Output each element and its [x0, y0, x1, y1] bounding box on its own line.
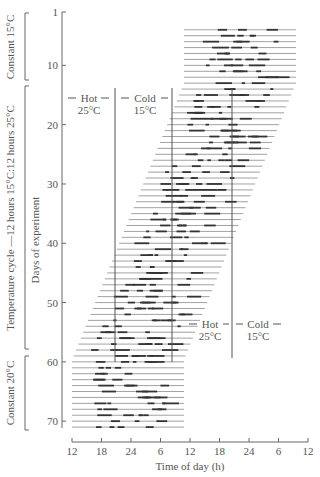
condition-label-constant-15: Constant 15°C	[4, 15, 16, 80]
y-tick-label: 1	[53, 6, 59, 18]
hot-temp-top: 25°C	[78, 104, 101, 116]
actogram-chart: Constant 15°C Temperature cycle —12 hour…	[0, 0, 320, 477]
bracket-constant-20	[25, 356, 29, 430]
x-tick-label: 12	[67, 445, 78, 457]
y-tick-label: 30	[47, 178, 59, 190]
activity-traces	[72, 30, 296, 427]
y-tick-label: 40	[47, 237, 59, 249]
x-tick-label: 24	[126, 445, 138, 457]
x-tick-label: 6	[158, 445, 164, 457]
x-tick-label: 6	[276, 445, 282, 457]
hot-temp-bottom: 25°C	[199, 330, 222, 342]
y-axis-title: Days of experiment	[29, 197, 41, 284]
phase-labels-top: Hot 25°C Cold 15°C	[68, 92, 168, 116]
cold-label-bottom: Cold	[247, 318, 269, 330]
y-tick-label: 20	[47, 119, 59, 131]
x-tick-label: 12	[185, 445, 196, 457]
x-axis-title: Time of day (h)	[156, 460, 225, 473]
x-axis: 1218246121824612	[67, 438, 314, 457]
y-tick-label: 60	[47, 356, 59, 368]
condition-label-temperature-cycle: Temperature cycle —12 hours 15°C:12 hour…	[4, 105, 16, 331]
cold-temp-bottom: 15°C	[247, 330, 270, 342]
x-tick-label: 24	[244, 445, 256, 457]
y-tick-label: 50	[47, 297, 59, 309]
condition-label-constant-20: Constant 20°C	[4, 361, 16, 426]
bracket-constant-15	[25, 13, 29, 80]
y-tick-label: 70	[47, 415, 59, 427]
cold-temp-top: 15°C	[134, 104, 157, 116]
hot-label-top: Hot	[81, 92, 98, 104]
x-tick-label: 18	[214, 445, 226, 457]
cold-label-top: Cold	[134, 92, 156, 104]
x-tick-label: 12	[303, 445, 314, 457]
x-tick-label: 18	[96, 445, 108, 457]
y-axis: 110203040506070	[47, 6, 66, 428]
phase-labels-bottom: Hot 25°C Cold 15°C	[189, 318, 281, 342]
y-tick-label: 10	[47, 59, 59, 71]
hot-label-bottom: Hot	[202, 318, 219, 330]
